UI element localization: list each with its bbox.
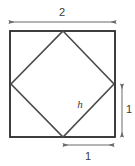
bottom-dimension-1: 1 [63, 145, 114, 162]
top-dimension-2: 2 [9, 6, 116, 22]
outer-square [10, 31, 115, 137]
hypotenuse-label-h: h [77, 98, 83, 110]
bottom-dimension-label: 1 [85, 150, 91, 162]
inner-tilted-square [11, 31, 114, 137]
right-dimension-label: 1 [126, 103, 132, 115]
top-dimension-label: 2 [59, 6, 65, 18]
geometry-figure-svg: 2 1 1 h [0, 0, 135, 166]
geometry-figure-container: 2 1 1 h [0, 0, 135, 166]
right-dimension-1: 1 [122, 84, 132, 137]
